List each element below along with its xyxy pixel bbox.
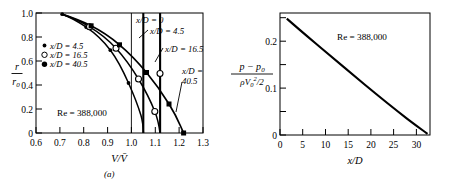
x-tick-label: 1.1: [149, 138, 161, 148]
annotation-xd-4p5: x/D = 4.5: [149, 26, 185, 36]
x-tick-label: 0.8: [78, 138, 90, 148]
data-point: [167, 102, 172, 107]
x-tick-label: 20: [366, 140, 376, 150]
legend-label-2: x/D = 40.5: [49, 59, 88, 69]
y-tick-label: 0.8: [21, 33, 33, 43]
annotation-xd-40p5-line2: 40.5: [182, 76, 198, 86]
annotation-xd-40p5-line1: x/D =: [181, 66, 203, 76]
chart-a-svg: 1.0 0.8 0.6 0.4 0.2 0 0.6 0.7 0.8 0.9 1.…: [0, 0, 227, 187]
data-point: [127, 81, 131, 85]
x-axis-tick-labels-b: 0 5 10 15 20 25 30: [278, 140, 422, 150]
legend-marker-open: [42, 52, 47, 57]
y-tick-label: 1.0: [21, 9, 33, 19]
y-axis-title-denominator: ρV02/2: [239, 75, 264, 88]
data-point: [144, 70, 149, 75]
x-tick-label: 0.6: [30, 138, 42, 148]
y-axis-title-numerator: r: [15, 61, 19, 72]
data-point: [89, 23, 94, 28]
y-tick-label: 0.6: [21, 57, 33, 67]
y-tick-label: 0.1: [265, 84, 277, 94]
reynolds-annotation-a: Re = 388,000: [57, 108, 107, 118]
data-point: [136, 76, 142, 82]
chart-panel-b: 0 0.1 0.2 0 5 10 15 20 25 30 p − p0 ρV02…: [228, 0, 455, 187]
x-tick-label: 1.3: [197, 138, 209, 148]
panel-caption-a: (a): [104, 169, 115, 179]
y-axis-tick-labels-b: 0 0.1 0.2: [265, 37, 277, 141]
y-tick-label: 0.4: [21, 81, 33, 91]
data-point: [60, 12, 64, 16]
annotation-xd-0: x/D = 0: [135, 15, 164, 25]
y-tick-label: 0: [272, 131, 277, 141]
y-axis-title-numerator: p − p0: [238, 61, 265, 74]
chart-panel-a: 1.0 0.8 0.6 0.4 0.2 0 0.6 0.7 0.8 0.9 1.…: [0, 0, 227, 187]
legend-marker-filled-large: [42, 61, 47, 66]
y-axis-tick-labels-a: 1.0 0.8 0.6 0.4 0.2 0: [21, 9, 33, 139]
x-tick-label: 10: [321, 140, 331, 150]
x-axis-title-text: V/V̄: [111, 153, 128, 164]
data-point: [117, 42, 122, 47]
data-point: [157, 71, 163, 77]
y-tick-label: 0: [28, 129, 33, 139]
y-axis-title-denominator: r0: [12, 76, 20, 89]
reynolds-annotation-b: Re = 388,000: [337, 32, 387, 42]
chart-b-svg: 0 0.1 0.2 0 5 10 15 20 25 30 p − p0 ρV02…: [228, 0, 455, 187]
annotation-xd-16p5: x/D = 16.5: [164, 44, 204, 54]
x-tick-label: 0.9: [102, 138, 114, 148]
x-axis-title-a: V/V̄: [111, 153, 128, 164]
x-tick-label: 0.7: [54, 138, 66, 148]
x-tick-label: 1.0: [125, 138, 137, 148]
figure-root: 1.0 0.8 0.6 0.4 0.2 0 0.6 0.7 0.8 0.9 1.…: [0, 0, 455, 187]
data-point: [181, 131, 186, 136]
y-tick-label: 0.2: [265, 37, 277, 47]
y-tick-label: 0.2: [21, 105, 33, 115]
x-tick-label: 15: [343, 140, 353, 150]
data-point: [109, 48, 113, 52]
x-tick-label: 5: [300, 140, 305, 150]
x-tick-label: 30: [412, 140, 422, 150]
legend-marker-filled-small: [43, 44, 47, 48]
x-tick-label: 25: [389, 140, 399, 150]
x-tick-label: 1.2: [173, 138, 185, 148]
x-axis-tick-labels-a: 0.6 0.7 0.8 0.9 1.0 1.1 1.2 1.3: [30, 138, 209, 148]
x-axis-title-b: x/D: [346, 155, 363, 166]
data-point: [152, 109, 158, 115]
x-tick-label: 0: [278, 140, 283, 150]
